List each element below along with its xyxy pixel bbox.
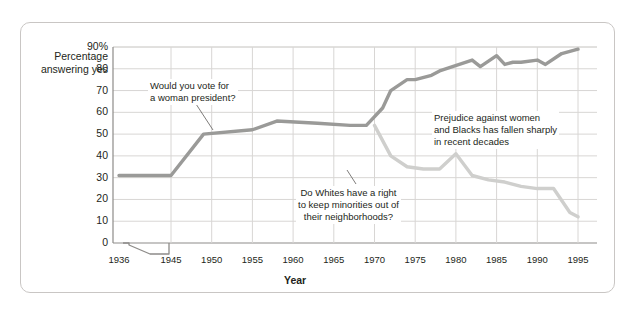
y-tick-label: 10 xyxy=(72,214,108,226)
x-tick-label: 1995 xyxy=(558,254,598,265)
x-tick-label: 1990 xyxy=(517,254,557,265)
x-tick-label: 1960 xyxy=(273,254,313,265)
x-tick-label: 1950 xyxy=(192,254,232,265)
x-tick-label: 1980 xyxy=(436,254,476,265)
x-tick-label: 1936 xyxy=(99,254,139,265)
x-tick-label: 1975 xyxy=(395,254,435,265)
x-tick-label: 1985 xyxy=(477,254,517,265)
y-tick-label: 70 xyxy=(72,84,108,96)
chart-plot: Percentage answering yes Year Would you … xyxy=(0,0,635,310)
x-axis-title: Year xyxy=(284,274,306,286)
x-tick-label: 1965 xyxy=(314,254,354,265)
y-tick-label: 80 xyxy=(72,62,108,74)
y-tick-label: 50 xyxy=(72,127,108,139)
x-tick-label: 1945 xyxy=(151,254,191,265)
y-tick-label: 20 xyxy=(72,192,108,204)
annotation-prejudice-summary: Prejudice against women and Blacks has f… xyxy=(432,111,559,149)
annotation-woman-president: Would you vote for a woman president? xyxy=(148,79,238,105)
y-tick-label: 30 xyxy=(72,171,108,183)
y-tick-label: 90% xyxy=(72,40,108,52)
x-tick-label: 1970 xyxy=(355,254,395,265)
y-tick-label: 0 xyxy=(72,236,108,248)
x-tick-label: 1955 xyxy=(232,254,272,265)
y-tick-label: 40 xyxy=(72,149,108,161)
annotation-whites-neighborhoods: Do Whites have a right to keep minoritie… xyxy=(296,186,401,224)
y-tick-label: 60 xyxy=(72,105,108,117)
